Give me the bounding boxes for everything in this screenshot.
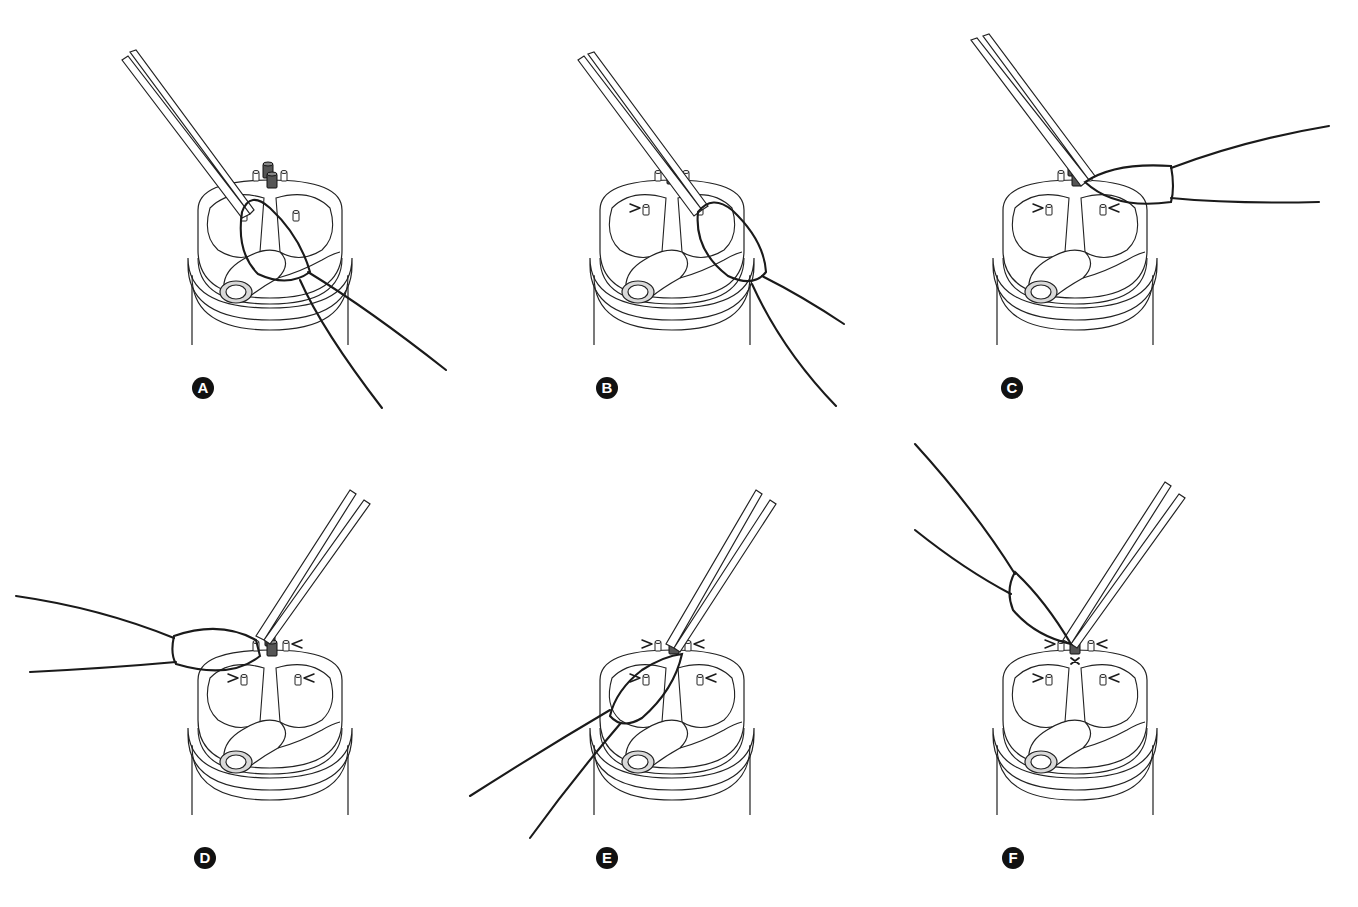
device-body (188, 650, 352, 815)
panel-label-c: C (1001, 377, 1023, 399)
suture-tail (762, 276, 844, 324)
suture-tail (752, 284, 836, 406)
suture-tail (915, 444, 1015, 574)
panel-e (470, 490, 776, 838)
panel-c (971, 34, 1329, 345)
panel-a (122, 50, 446, 408)
device-body (590, 180, 754, 345)
figure-canvas (0, 0, 1358, 907)
suture-tail (915, 530, 1011, 594)
panel-label-b: B (596, 377, 618, 399)
device-body (993, 650, 1157, 815)
suture-tail (1171, 126, 1329, 168)
panel-f (915, 444, 1185, 815)
device-body (590, 650, 754, 815)
suture-loop (1009, 572, 1071, 644)
forceps (666, 490, 776, 652)
panel-d (16, 490, 370, 815)
panel-label-d: D (194, 847, 216, 869)
forceps (256, 490, 370, 644)
panel-b (578, 52, 844, 406)
suture-tail (30, 662, 176, 672)
forceps (1063, 482, 1185, 648)
panel-label-e: E (596, 847, 618, 869)
device-body (993, 180, 1157, 345)
forceps (122, 50, 254, 218)
suture-tail (300, 280, 382, 408)
suture-tail (308, 272, 446, 370)
panel-label-a: A (192, 377, 214, 399)
suture-tail (16, 596, 174, 638)
device-body (188, 180, 352, 345)
forceps (971, 34, 1095, 186)
suture-tail (1171, 198, 1319, 203)
panel-label-f: F (1002, 847, 1024, 869)
suture-tail (470, 710, 610, 796)
